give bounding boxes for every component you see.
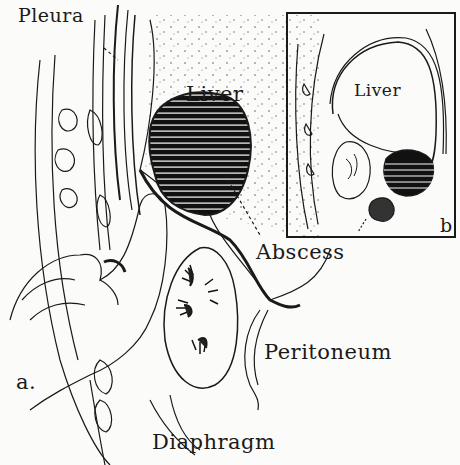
label-pleura: Pleura: [18, 4, 84, 26]
inset-panel-b: [286, 12, 456, 238]
label-abscess: Abscess: [256, 240, 345, 264]
label-peritoneum: Peritoneum: [264, 340, 392, 364]
label-inset-liver: Liver: [354, 80, 401, 100]
label-liver: Liver: [186, 82, 244, 106]
label-diaphragm: Diaphragm: [152, 430, 275, 454]
abscess-cavity: [149, 93, 251, 215]
pleura-layer: [114, 5, 120, 200]
illustration-panel-b: [288, 14, 454, 236]
panel-label-b: b: [440, 214, 453, 236]
inset-abscess: [384, 150, 433, 196]
kidney: [164, 248, 238, 388]
renal-calyces-icon: [176, 265, 218, 354]
peritoneum-layer: [245, 310, 260, 410]
panel-label-a: a.: [16, 370, 36, 394]
